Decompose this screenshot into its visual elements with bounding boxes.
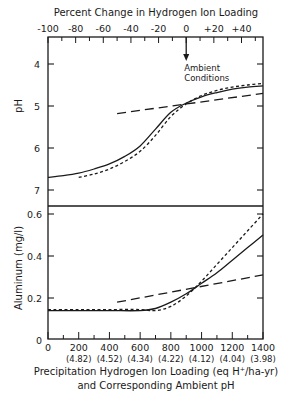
bottom-tick-sublabel: (4.22) (158, 354, 184, 364)
x-axis-label-line1: Precipitation Hydrogen Ion Loading (eq H… (34, 366, 278, 377)
al-y-tick-label: 0.4 (27, 251, 42, 262)
ambient-label-line2: Conditions (184, 73, 230, 83)
bottom-tick-sublabel: (4.34) (127, 354, 153, 364)
top-tick-label: -40 (123, 23, 139, 34)
top-tick-label: -80 (68, 23, 84, 34)
bottom-tick-sublabel: (4.52) (97, 354, 123, 364)
aluminum-y-ticks: 00.20.40.6 (27, 209, 263, 346)
aluminum-series-solid (48, 235, 263, 311)
bottom-tick-label: 200 (70, 342, 88, 353)
bottom-tick-label: 600 (131, 342, 149, 353)
top-tick-label: -100 (37, 23, 59, 34)
bottom-tick-sublabel: (4.82) (66, 354, 92, 364)
bottom-tick-label: 400 (100, 342, 118, 353)
bottom-tick-label: 0 (45, 342, 51, 353)
bottom-tick-sublabel: (4.12) (189, 354, 215, 364)
bottom-tick-label: 1000 (189, 342, 213, 353)
ph-series-long-dash (117, 93, 263, 113)
top-tick-label: +20 (204, 23, 224, 34)
ph-y-tick-label: 4 (34, 59, 40, 70)
top-tick-label: -60 (96, 23, 112, 34)
bottom-tick-label: 800 (162, 342, 180, 353)
ambient-annotation: Ambient Conditions (183, 37, 230, 83)
al-y-tick-label: 0.2 (27, 293, 42, 304)
bottom-tick-sublabel: (3.98) (250, 354, 276, 364)
aluminum-series (48, 214, 263, 311)
aluminum-series-long-dash (117, 275, 263, 302)
bottom-tick-label: 1200 (220, 342, 244, 353)
top-axis-ticks: -100-80-60-40-200+20+40 (37, 23, 255, 43)
ph-series (48, 83, 263, 177)
aluminum-y-axis-label: Aluminum (mg/l) (13, 226, 24, 310)
plot-border (48, 37, 263, 339)
aluminum-series-short-dash (48, 214, 263, 311)
x-axis-label-line2: and Corresponding Ambient pH (77, 380, 234, 391)
al-y-tick-label: 0.6 (27, 209, 42, 220)
ambient-arrow-head (183, 54, 189, 61)
bottom-tick-label: 1400 (251, 342, 275, 353)
ph-y-tick-label: 6 (34, 143, 40, 154)
al-y-tick-label: 0 (36, 335, 42, 346)
ph-series-solid (48, 86, 263, 178)
chart: Percent Change in Hydrogen Ion Loading -… (0, 0, 292, 403)
bottom-axis-ticks: 0200(4.82)400(4.52)600(4.34)800(4.22)100… (45, 332, 276, 364)
top-axis-title: Percent Change in Hydrogen Ion Loading (54, 7, 258, 18)
ph-y-tick-label: 5 (34, 101, 40, 112)
bottom-tick-sublabel: (4.04) (220, 354, 246, 364)
ph-y-tick-label: 7 (34, 185, 40, 196)
ambient-label-line1: Ambient (184, 63, 220, 73)
top-tick-label: 0 (183, 23, 189, 34)
ph-y-axis-label: pH (13, 99, 24, 113)
plot-frames (48, 37, 263, 339)
top-tick-label: -20 (151, 23, 167, 34)
top-tick-label: +40 (231, 23, 251, 34)
